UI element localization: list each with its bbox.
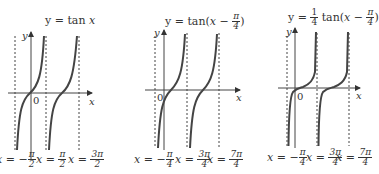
x-axis-label: x bbox=[236, 93, 242, 103]
tan-curve bbox=[289, 32, 317, 146]
asymptote-label: x = −π4 bbox=[267, 148, 307, 167]
y-axis-label: y bbox=[286, 27, 292, 37]
tan-curve bbox=[319, 32, 349, 146]
panel-2-graph bbox=[145, 30, 240, 150]
y-axis-label: y bbox=[154, 28, 160, 38]
panel-1-graph bbox=[8, 32, 92, 160]
panel-1-title: y = tan x bbox=[45, 15, 95, 26]
tan-curve bbox=[190, 34, 217, 148]
asymptote-label: x = 7π4 bbox=[336, 148, 372, 167]
origin-label: 0 bbox=[297, 92, 303, 102]
asymptote-label: x = π2 bbox=[36, 150, 66, 169]
asymptote-label: x = 7π4 bbox=[207, 150, 243, 169]
origin-label: 0 bbox=[33, 96, 39, 106]
x-axis-label: x bbox=[89, 97, 95, 107]
asymptote-label: x = 3π2 bbox=[68, 150, 104, 169]
x-axis-label: x bbox=[356, 91, 362, 101]
tan-curve bbox=[158, 34, 185, 148]
origin-label: 0 bbox=[157, 93, 163, 103]
asymptote-label: x = −π2 bbox=[0, 150, 36, 169]
asymptote-label: x = −π4 bbox=[134, 150, 174, 169]
panel-2-title: y = tan(x − π4) bbox=[165, 12, 244, 31]
asymptote-label: x = 3π4 bbox=[175, 150, 211, 169]
y-axis-label: y bbox=[22, 31, 28, 41]
panel-3-graph bbox=[278, 28, 360, 148]
panel-3-title: y = 14 tan(x − π4) bbox=[288, 8, 379, 27]
